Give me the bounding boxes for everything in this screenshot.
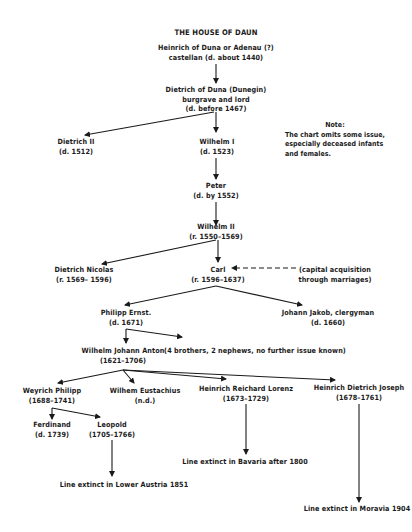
- chart-note: Note: The chart omits some issue, especi…: [285, 121, 385, 159]
- node-heinrich: Heinrich of Duna or Adenau (?) castellan…: [158, 43, 274, 62]
- node-name: Leopold: [89, 420, 135, 430]
- node-detail: (d. 1671): [101, 318, 152, 328]
- node-detail: (d. 1739): [33, 430, 71, 440]
- note-heading: Note:: [285, 121, 385, 131]
- node-detail: castellan (d. about 1440): [158, 53, 274, 63]
- node-wilhelm-johann-anton: Wilhelm Johann Anton (1621–1706): [82, 346, 165, 365]
- node-name: Wilhelm Johann Anton: [82, 346, 165, 356]
- extinct-bavaria: Line extinct in Bavaria after 1800: [182, 457, 308, 467]
- node-detail: (d. 1512): [57, 147, 94, 157]
- chart-title: THE HOUSE OF DAUN: [174, 28, 257, 38]
- extinct-text: Line extinct in Moravia 1904: [304, 504, 411, 514]
- node-name: Carl: [191, 265, 244, 275]
- extinct-text: Line extinct in Lower Austria 1851: [60, 480, 189, 490]
- node-name: Heinrich of Duna or Adenau (?): [158, 43, 274, 53]
- node-detail: (1678–1761): [314, 393, 405, 403]
- node-philipp-ernst: Philipp Ernst. (d. 1671): [101, 308, 152, 327]
- node-detail: (1688–1741): [23, 396, 81, 406]
- node-wilhelm-ii: Wilhelm II (r. 1550–1569): [189, 222, 242, 241]
- node-detail: (1621–1706): [82, 356, 165, 366]
- node-detail: (n.d.): [110, 396, 181, 406]
- extinct-text: Line extinct in Bavaria after 1800: [182, 457, 308, 467]
- node-name: Dietrich Nicolas: [54, 265, 113, 275]
- node-detail: (r. 1596–1637): [191, 275, 244, 285]
- node-weyrich-philipp: Weyrich Philipp (1688–1741): [23, 386, 81, 405]
- node-detail: (1673–1729): [199, 394, 293, 404]
- node-name: Dietrich of Duna (Dunegin): [166, 85, 267, 95]
- node-detail: (1705–1766): [89, 430, 135, 440]
- node-leopold: Leopold (1705–1766): [89, 420, 135, 439]
- extinct-lower-austria: Line extinct in Lower Austria 1851: [60, 480, 189, 490]
- node-name: Peter: [193, 181, 239, 191]
- node-detail: (d. by 1552): [193, 191, 239, 201]
- node-name: Johann Jakob, clergyman: [282, 308, 374, 318]
- node-heinrich-reichard-lorenz: Heinrich Reichard Lorenz (1673–1729): [199, 384, 293, 403]
- note-line: The chart omits some issue,: [285, 131, 385, 141]
- node-detail: (d. before 1467): [166, 104, 267, 114]
- node-name: Weyrich Philipp: [23, 386, 81, 396]
- node-wilhem-eustachius: Wilhem Eustachius (n.d.): [110, 386, 181, 405]
- node-name: (capital acquisition: [298, 265, 371, 275]
- node-brothers: (4 brothers, 2 nephews, no further issue…: [164, 346, 346, 356]
- note-line: and females.: [285, 150, 385, 160]
- extinct-moravia: Line extinct in Moravia 1904: [304, 504, 411, 514]
- node-name: Wilhem Eustachius: [110, 386, 181, 396]
- node-heinrich-dietrich-joseph: Heinrich Dietrich Joseph (1678–1761): [314, 383, 405, 402]
- node-detail: (r. 1569– 1596): [54, 275, 113, 285]
- node-detail: (d. 1523): [199, 147, 234, 157]
- node-name: (4 brothers, 2 nephews, no further issue…: [164, 346, 346, 356]
- node-detail: burgrave and lord: [166, 95, 267, 105]
- node-dietrich: Dietrich of Duna (Dunegin) burgrave and …: [166, 85, 267, 114]
- node-capital-acquisition: (capital acquisition through marriages): [298, 265, 371, 284]
- node-wilhelm-i: Wilhelm I (d. 1523): [199, 137, 234, 156]
- node-name: Philipp Ernst.: [101, 308, 152, 318]
- node-name: Heinrich Dietrich Joseph: [314, 383, 405, 393]
- node-detail: through marriages): [298, 275, 371, 285]
- node-carl: Carl (r. 1596–1637): [191, 265, 244, 284]
- node-ferdinand: Ferdinand (d. 1739): [33, 420, 71, 439]
- node-name: Wilhelm II: [189, 222, 242, 232]
- node-name: Dietrich II: [57, 137, 94, 147]
- note-line: especially deceased infants: [285, 140, 385, 150]
- node-peter: Peter (d. by 1552): [193, 181, 239, 200]
- node-name: Wilhelm I: [199, 137, 234, 147]
- node-dietrich-ii: Dietrich II (d. 1512): [57, 137, 94, 156]
- node-name: Heinrich Reichard Lorenz: [199, 384, 293, 394]
- node-dietrich-nicolas: Dietrich Nicolas (r. 1569– 1596): [54, 265, 113, 284]
- node-johann-jakob: Johann Jakob, clergyman (d. 1660): [282, 308, 374, 327]
- node-detail: (r. 1550–1569): [189, 232, 242, 242]
- title-text: THE HOUSE OF DAUN: [174, 28, 257, 38]
- node-name: Ferdinand: [33, 420, 71, 430]
- node-detail: (d. 1660): [282, 318, 374, 328]
